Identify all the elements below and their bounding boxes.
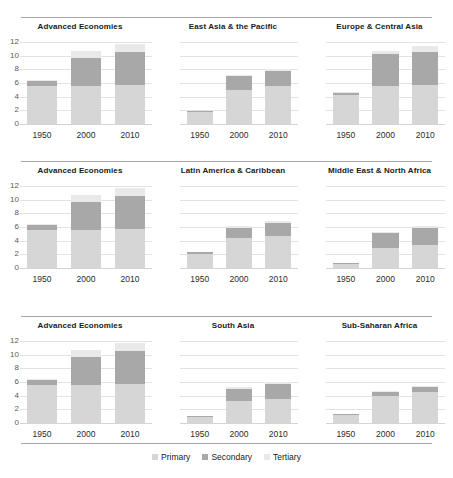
plot-area: 024681012 [306,341,453,423]
x-axis: 195020002010 [160,128,306,144]
x-axis-pad [0,427,20,443]
chart-panel: Middle East & North Africa02468101219502… [306,166,453,314]
bar-segment-primary [226,90,252,124]
stacked-bar[interactable] [115,44,144,124]
chart-legend: PrimarySecondaryTertiary [0,452,453,462]
gridline [180,268,298,269]
x-axis: 195020002010 [306,272,453,288]
bar-slot [180,341,219,423]
y-tick-label: 4 [15,93,19,101]
x-tick-label: 1950 [326,272,366,288]
bar-group [180,42,298,124]
bar-segment-primary [265,399,291,423]
x-tick-label: 2000 [366,427,406,443]
stacked-bar[interactable] [226,387,252,423]
stacked-bar[interactable] [27,224,56,268]
stacked-bar[interactable] [372,51,398,124]
bar-slot [366,42,406,124]
bar-slot [326,186,366,268]
bar-slot [180,186,219,268]
panel-title: Advanced Economies [0,321,160,341]
bar-segment-secondary [226,228,252,238]
bar-segment-secondary [412,52,438,85]
stacked-bar[interactable] [27,80,56,124]
bar-segment-secondary [115,351,144,384]
y-tick-label: 8 [15,65,19,73]
legend-item[interactable]: Secondary [202,452,252,462]
bar-slot [219,42,258,124]
stacked-bar[interactable] [187,252,213,268]
panel-title: Latin America & Caribbean [160,166,306,186]
bar-segment-primary [71,385,100,423]
bar-slot [64,341,108,423]
stacked-bar[interactable] [115,188,144,268]
stacked-bar[interactable] [265,221,291,268]
y-axis: 024681012 [160,42,180,124]
x-axis: 195020002010 [306,427,453,443]
legend-item[interactable]: Tertiary [264,452,301,462]
x-axis: 195020002010 [0,427,160,443]
stacked-bar[interactable] [71,350,100,423]
bar-segment-primary [333,415,359,423]
y-tick-label: 6 [15,223,19,231]
plot-canvas [180,341,298,423]
bar-group [326,186,445,268]
y-tick-label: 12 [10,38,19,46]
bar-segment-tertiary [115,343,144,351]
stacked-bar[interactable] [187,111,213,124]
bar-group [180,341,298,423]
bar-slot [64,186,108,268]
small-multiples-figure: Advanced Economies024681012195020002010E… [0,0,453,478]
stacked-bar[interactable] [333,92,359,124]
y-axis: 024681012 [306,186,326,268]
stacked-bar[interactable] [372,391,398,423]
plot-area: 024681012 [306,42,453,124]
bar-slot [20,42,64,124]
panel-title: Europe & Central Asia [306,22,453,42]
x-tick-label: 2000 [64,128,108,144]
stacked-bar[interactable] [372,232,398,268]
x-tick-label: 2000 [366,272,406,288]
x-axis-pad [160,128,180,144]
bar-segment-secondary [265,223,291,236]
plot-canvas [326,186,445,268]
x-tick-label: 1950 [20,128,64,144]
bar-slot [259,341,298,423]
bar-slot [405,42,445,124]
stacked-bar[interactable] [265,382,291,423]
gridline [326,423,445,424]
bar-segment-secondary [226,389,252,401]
bar-group [20,42,152,124]
stacked-bar[interactable] [333,263,359,268]
plot-canvas [326,341,445,423]
stacked-bar[interactable] [412,226,438,268]
stacked-bar[interactable] [27,379,56,423]
stacked-bar[interactable] [265,69,291,124]
chart-panel: South Asia024681012195020002010 [160,321,306,441]
stacked-bar[interactable] [226,226,252,268]
stacked-bar[interactable] [412,386,438,423]
bar-slot [366,341,406,423]
y-tick-label: 10 [10,196,19,204]
x-axis: 195020002010 [306,128,453,144]
stacked-bar[interactable] [412,46,438,124]
stacked-bar[interactable] [71,195,100,268]
bar-segment-tertiary [115,188,144,196]
y-tick-label: 8 [15,209,19,217]
divider-row2 [21,316,432,317]
bar-slot [259,186,298,268]
stacked-bar[interactable] [115,343,144,423]
plot-area: 024681012 [160,341,306,423]
plot-area: 024681012 [0,42,160,124]
divider-row1 [21,161,432,162]
y-tick-label: 0 [15,120,19,128]
stacked-bar[interactable] [226,75,252,124]
panel-row-3: Advanced Economies024681012195020002010S… [0,321,453,441]
gridline [20,423,152,424]
y-tick-label: 2 [15,250,19,258]
legend-item[interactable]: Primary [152,452,190,462]
bar-segment-secondary [71,58,100,86]
stacked-bar[interactable] [333,414,359,423]
stacked-bar[interactable] [187,416,213,423]
stacked-bar[interactable] [71,51,100,124]
